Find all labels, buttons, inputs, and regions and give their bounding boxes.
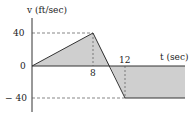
ytick-40: 40 — [13, 29, 24, 38]
y-axis-label: v (ft/sec) — [27, 6, 67, 15]
xtick-8: 8 — [90, 69, 96, 78]
x-axis-label: t (sec) — [160, 53, 189, 62]
ytick-neg40: − 40 — [5, 94, 27, 103]
xtick-12: 12 — [119, 56, 130, 65]
ytick-0: 0 — [20, 62, 26, 71]
negative-area — [110, 66, 185, 98]
positive-area — [32, 33, 110, 66]
